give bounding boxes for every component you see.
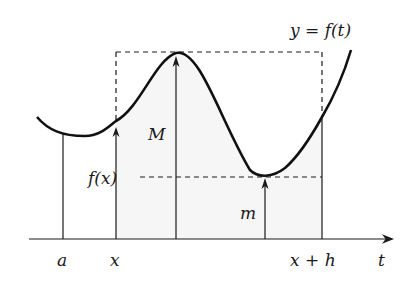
curve-label: y = f(t): [290, 22, 351, 39]
shaded-region: [116, 53, 322, 239]
tick-label-a: a: [57, 252, 67, 269]
diagram-canvas: y = f(t) M f(x) m a x x + h t: [0, 0, 411, 294]
tick-label-x-plus-h: x + h: [290, 252, 336, 269]
fx-label: f(x): [88, 170, 117, 187]
tick-label-x: x: [110, 252, 120, 269]
axis-label-t: t: [378, 252, 385, 269]
min-label: m: [240, 205, 256, 222]
max-label: M: [148, 126, 165, 143]
